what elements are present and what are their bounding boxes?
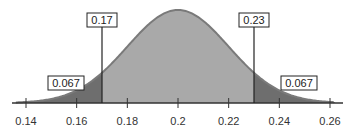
right-tail-label: 0.067: [285, 77, 313, 89]
cutoff-label: 0.17: [91, 14, 112, 26]
left-tail-label: 0.067: [52, 77, 80, 89]
x-tick-label: 0.26: [319, 115, 340, 127]
x-tick-label: 0.22: [218, 115, 239, 127]
x-tick-label: 0.16: [66, 115, 87, 127]
center-area: [102, 10, 254, 103]
cutoff-label: 0.23: [243, 14, 264, 26]
normal-distribution-chart: 0.140.160.180.20.220.240.26 0.170.23 0.0…: [0, 0, 355, 133]
x-tick-label: 0.14: [15, 115, 36, 127]
x-tick-label: 0.2: [170, 115, 185, 127]
x-tick-label: 0.18: [117, 115, 138, 127]
x-tick-label: 0.24: [269, 115, 290, 127]
